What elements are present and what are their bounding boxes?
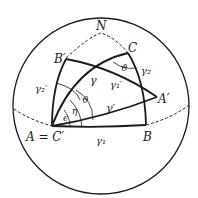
label-north: N — [95, 19, 107, 33]
label-gamma1-prime: γ₁′ — [110, 79, 123, 90]
label-theta-top: ϑ — [121, 63, 128, 73]
equator-dashed-right — [146, 105, 189, 125]
equator-dashed-left — [14, 109, 52, 126]
label-c: C — [128, 41, 137, 55]
label-gamma: γ — [90, 74, 97, 87]
label-eta: η — [72, 106, 78, 116]
spherical-diagram: N B′ C A′ A = C′ B γ γ′ γ₁ γ₁′ γ₂ γ₂′ ϑ … — [0, 0, 198, 198]
arc-gamma1 — [52, 125, 146, 127]
meridian-dashed-arc — [66, 33, 128, 58]
label-theta-mid: ϑ — [82, 95, 89, 105]
label-a-prime: A′ — [157, 92, 170, 106]
label-b-prime: B′ — [53, 52, 66, 66]
label-b: B — [142, 130, 152, 144]
label-a-eq-c-prime: A = C′ — [25, 130, 65, 144]
label-gamma2: γ₂ — [141, 65, 151, 76]
sphere-outline — [13, 18, 189, 194]
angle-arc-outer — [56, 83, 80, 100]
label-gamma2-prime: γ₂′ — [35, 83, 48, 94]
label-epsilon: ϵ — [63, 113, 68, 123]
label-gamma-prime: γ′ — [106, 102, 116, 115]
label-gamma1: γ₁ — [96, 135, 106, 146]
